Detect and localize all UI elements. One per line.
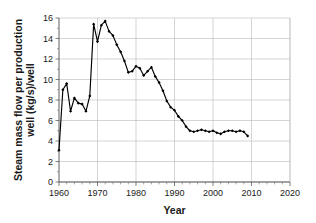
x-tick-labels-group: 1960197019801990200020102020 <box>49 188 300 198</box>
data-point-1995 <box>192 130 195 133</box>
x-tick-label-1990: 1990 <box>164 188 184 198</box>
y-tick-label-14: 14 <box>43 34 53 44</box>
data-point-1997 <box>200 128 203 131</box>
data-point-2007 <box>238 129 241 132</box>
data-point-1999 <box>208 130 211 133</box>
y-tick-label-10: 10 <box>43 75 53 85</box>
y-axis-title: Steam mass flow per productionwell (kg/s… <box>12 19 36 181</box>
x-tick-label-2000: 2000 <box>203 188 223 198</box>
x-tick-label-1980: 1980 <box>126 188 146 198</box>
data-point-1998 <box>204 129 207 132</box>
data-point-1969 <box>92 23 95 26</box>
y-tick-label-16: 16 <box>43 13 53 23</box>
x-tick-label-2010: 2010 <box>241 188 261 198</box>
x-tick-label-1970: 1970 <box>87 188 107 198</box>
data-point-2005 <box>231 129 234 132</box>
data-point-2006 <box>235 130 238 133</box>
y-axis-title-line1: Steam mass flow per production <box>12 19 24 181</box>
data-point-1968 <box>88 94 91 97</box>
y-tick-label-2: 2 <box>48 157 53 167</box>
steam-mass-flow-line-chart: 0246810121416196019701980199020002010202… <box>0 0 316 223</box>
y-tick-label-6: 6 <box>48 116 53 126</box>
y-tick-label-4: 4 <box>48 136 53 146</box>
data-point-2004 <box>227 129 230 132</box>
data-series-group <box>57 20 249 152</box>
series-line-steam-mass-flow <box>59 21 248 150</box>
data-point-1978 <box>127 71 130 74</box>
y-axis-title-line2: well (kg/s)/well <box>24 63 36 138</box>
tick-marks-group <box>56 18 291 186</box>
y-tick-label-0: 0 <box>48 177 53 187</box>
y-tick-label-12: 12 <box>43 54 53 64</box>
x-tick-label-2020: 2020 <box>280 188 300 198</box>
x-axis-title: Year <box>163 204 185 216</box>
data-point-1996 <box>196 129 199 132</box>
y-tick-label-8: 8 <box>48 95 53 105</box>
y-tick-labels-group: 0246810121416 <box>43 13 53 187</box>
data-point-1970 <box>96 40 99 43</box>
data-point-1963 <box>69 110 72 113</box>
gridlines-group <box>59 18 290 182</box>
chart-figure: 0246810121416196019701980199020002010202… <box>0 0 316 223</box>
data-point-1977 <box>123 60 126 63</box>
x-tick-label-1960: 1960 <box>49 188 69 198</box>
